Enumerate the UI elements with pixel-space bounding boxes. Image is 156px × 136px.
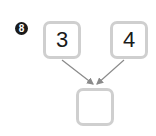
arrow-left-icon — [62, 60, 93, 84]
input-box-left: 3 — [43, 21, 81, 59]
answer-box[interactable] — [76, 88, 114, 126]
input-value-left: 3 — [56, 27, 68, 53]
arrow-right-icon — [97, 60, 124, 84]
input-box-right: 4 — [110, 21, 148, 59]
input-value-right: 4 — [123, 27, 135, 53]
